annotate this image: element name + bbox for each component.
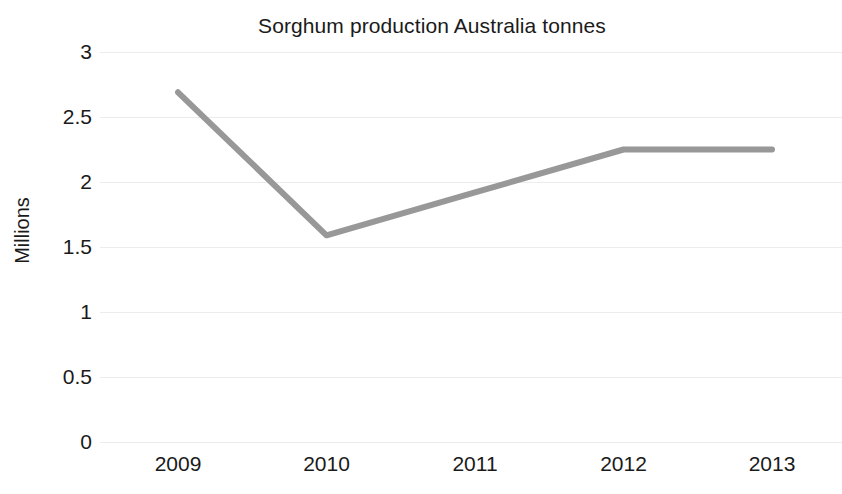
y-axis-tick-label: 2.5 bbox=[0, 106, 92, 127]
chart-title: Sorghum production Australia tonnes bbox=[0, 13, 842, 39]
line-chart: Sorghum production Australia tonnes Mill… bbox=[0, 0, 842, 494]
plot-area bbox=[100, 52, 842, 442]
y-axis-tick-label: 1 bbox=[0, 301, 92, 322]
y-axis-tick-label: 0.5 bbox=[0, 366, 92, 387]
y-axis-tick-label: 0 bbox=[0, 431, 92, 452]
y-axis-tick-label: 3 bbox=[0, 41, 92, 62]
x-axis-tick-label: 2009 bbox=[118, 450, 238, 478]
x-axis-tick-label: 2012 bbox=[564, 450, 684, 478]
y-axis-tick-label: 1.5 bbox=[0, 236, 92, 257]
y-axis-tick-labels: 00.511.522.53 bbox=[0, 0, 92, 494]
series-line-sorghum-production bbox=[100, 52, 842, 442]
gridline bbox=[100, 442, 842, 443]
y-axis-tick-label: 2 bbox=[0, 171, 92, 192]
series-polyline bbox=[178, 92, 772, 235]
chart-title-text: Sorghum production Australia tonnes bbox=[258, 13, 606, 39]
x-axis-tick-label: 2013 bbox=[712, 450, 832, 478]
x-axis-tick-label: 2011 bbox=[415, 450, 535, 478]
x-axis-tick-label: 2010 bbox=[267, 450, 387, 478]
x-axis-tick-labels: 20092010201120122013 bbox=[0, 450, 842, 494]
